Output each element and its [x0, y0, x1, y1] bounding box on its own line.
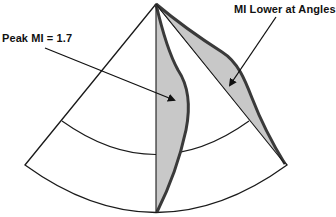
peak-mi-label: Peak MI = 1.7 — [2, 32, 72, 44]
peak-arrow — [45, 48, 174, 100]
mi-lower-label: MI Lower at Angles — [234, 3, 336, 15]
lower-arrow — [230, 17, 276, 85]
